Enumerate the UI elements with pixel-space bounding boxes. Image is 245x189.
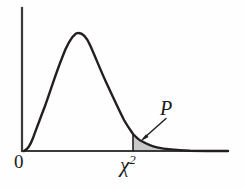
chi-square-density-curve (24, 33, 228, 151)
chi-square-figure: 0 χ2 P (0, 0, 245, 189)
tail-probability-label: P (160, 98, 172, 118)
chi-square-exponent: 2 (129, 152, 136, 167)
chi-square-axis-label: χ2 (120, 153, 136, 176)
origin-label: 0 (14, 152, 24, 171)
chi-square-symbol: χ (120, 153, 129, 177)
